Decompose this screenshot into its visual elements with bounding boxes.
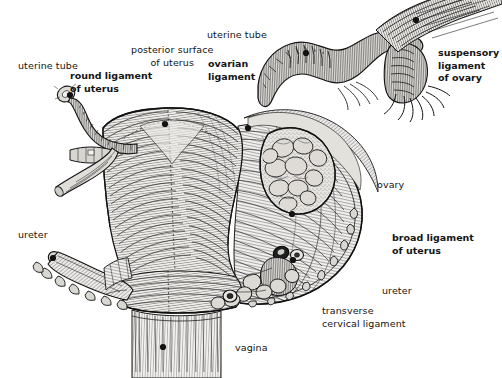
callout-label-round-ligament-of-uterus: round ligament of uterus [70, 70, 152, 95]
callout-label-suspensory-ligament-of-ovary: suspensory ligament of ovary [438, 47, 499, 85]
label-layer: uterine tuberound ligament of uteruspost… [0, 0, 502, 378]
callout-label-vagina: vagina [235, 342, 268, 355]
callout-label-ureter-left: ureter [18, 229, 48, 242]
callout-label-ovarian-ligament: ovarian ligament [208, 58, 255, 83]
callout-label-ureter-right: ureter [382, 285, 412, 298]
callout-label-posterior-surface-of-uterus: posterior surface of uterus [131, 44, 213, 69]
callout-label-transverse-cervical-ligament: transverse cervical ligament [322, 305, 406, 330]
callout-label-uterine-tube-top: uterine tube [207, 29, 267, 42]
callout-label-uterine-tube-left: uterine tube [18, 60, 78, 73]
callout-label-ovary: ovary [377, 179, 404, 192]
anatomy-figure: uterine tuberound ligament of uteruspost… [0, 0, 502, 378]
callout-label-broad-ligament-of-uterus: broad ligament of uterus [392, 232, 474, 257]
